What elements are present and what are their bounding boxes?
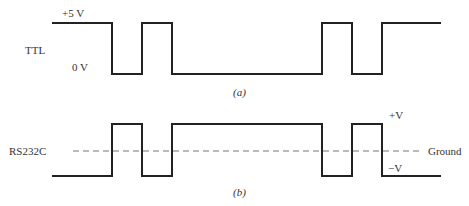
ttl-waveform [52,23,441,74]
ttl-low-level-label: 0 V [72,61,88,73]
panel-a-caption: (a) [233,86,246,98]
waveform-diagram [0,0,469,206]
panel-b-caption: (b) [233,186,246,198]
ground-label: Ground [428,145,462,157]
rs232c-high-level-label: +V [389,109,403,121]
ttl-signal-label: TTL [25,44,45,56]
waveform-comparison-figure: +5 V TTL 0 V (a) RS232C +V Ground −V (b) [0,0,469,206]
rs232c-waveform [52,124,441,176]
rs232c-low-level-label: −V [388,162,402,174]
ttl-high-level-label: +5 V [62,7,84,19]
rs232c-signal-label: RS232C [9,145,46,157]
